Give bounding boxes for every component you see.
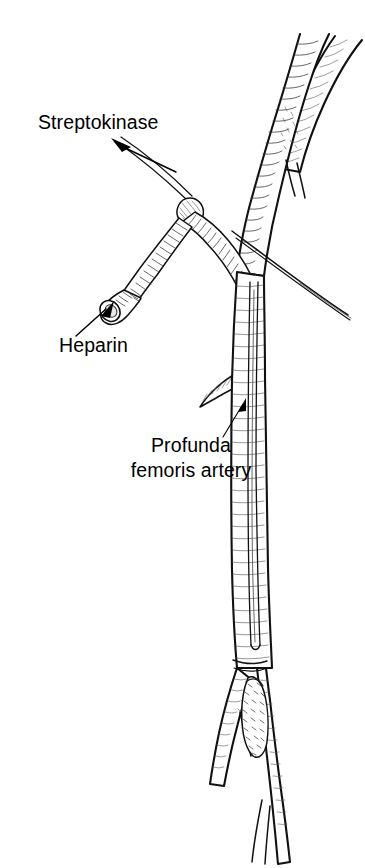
- medical-illustration-canvas: Streptokinase Heparin Profunda femoris a…: [0, 0, 365, 868]
- label-heparin: Heparin: [59, 334, 128, 356]
- label-profunda-femoris-artery-line2: femoris artery: [131, 459, 252, 481]
- illustration-figure: Streptokinase Heparin Profunda femoris a…: [0, 0, 365, 868]
- label-profunda-femoris-artery-line1: Profunda: [151, 434, 231, 456]
- label-streptokinase: Streptokinase: [38, 111, 159, 133]
